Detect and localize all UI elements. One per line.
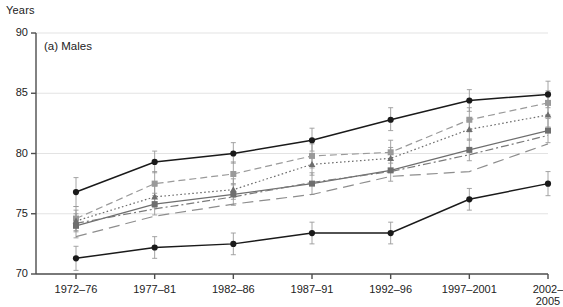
data-point-marker — [388, 117, 394, 123]
x-tick-label: 1972–76 — [55, 283, 98, 295]
data-point-marker — [545, 128, 551, 134]
data-point-marker — [73, 255, 79, 261]
data-point-marker — [73, 223, 79, 229]
y-tick-label: 75 — [2, 207, 28, 219]
data-point-marker — [466, 117, 472, 123]
y-tick-label: 80 — [2, 147, 28, 159]
x-tick-label: 2002–2005 — [533, 283, 563, 307]
data-point-marker — [309, 153, 315, 159]
data-point-marker — [466, 147, 472, 153]
data-point-marker — [466, 97, 472, 103]
data-point-marker — [73, 189, 79, 195]
data-point-marker — [230, 191, 236, 197]
data-point-marker — [152, 244, 158, 250]
data-point-marker — [230, 171, 236, 177]
x-tick-label: 1992–96 — [369, 283, 412, 295]
x-tick-label: 1987–91 — [291, 283, 334, 295]
x-tick-label: 1982–86 — [212, 283, 255, 295]
x-tick-label: 1977–81 — [133, 283, 176, 295]
data-point-marker — [309, 181, 315, 187]
data-point-marker — [545, 181, 551, 187]
y-tick-label: 70 — [2, 267, 28, 279]
y-tick-label: 90 — [2, 26, 28, 38]
data-point-marker — [309, 161, 316, 167]
data-point-marker — [230, 241, 236, 247]
y-tick-label: 85 — [2, 86, 28, 98]
data-point-marker — [545, 100, 551, 106]
data-point-marker — [466, 196, 472, 202]
data-point-marker — [309, 230, 315, 236]
data-point-marker — [152, 181, 158, 187]
data-point-marker — [388, 167, 394, 173]
data-point-marker — [388, 230, 394, 236]
data-point-marker — [230, 150, 236, 156]
data-point-marker — [152, 159, 158, 165]
data-point-marker — [230, 186, 237, 192]
data-point-marker — [152, 201, 158, 207]
data-point-marker — [388, 149, 394, 155]
data-point-marker — [309, 137, 315, 143]
x-tick-label: 1997–2001 — [442, 283, 497, 295]
data-point-marker — [545, 91, 551, 97]
